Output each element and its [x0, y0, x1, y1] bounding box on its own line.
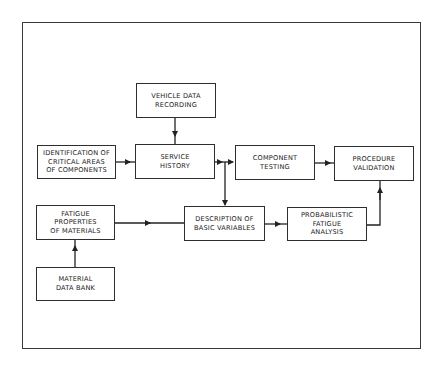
node-vehicle-data-recording: VEHICLE DATA RECORDING [136, 83, 216, 118]
node-description-basic-variables: DESCRIPTION OF BASIC VARIABLES [184, 206, 265, 241]
node-identification-critical-areas: IDENTIFICATION OF CRITICAL AREAS OF COMP… [37, 145, 116, 179]
node-material-data-bank: MATERIAL DATA BANK [36, 267, 115, 301]
node-fatigue-properties: FATIGUE PROPERTIES OF MATERIALS [36, 205, 115, 240]
node-service-history: SERVICE HISTORY [135, 144, 215, 179]
node-procedure-validation: PROCEDURE VALIDATION [334, 146, 414, 181]
node-component-testing: COMPONENT TESTING [235, 145, 315, 180]
node-probabilistic-fatigue-analysis: PROBABILISTIC FATIGUE ANALYSIS [287, 207, 367, 241]
